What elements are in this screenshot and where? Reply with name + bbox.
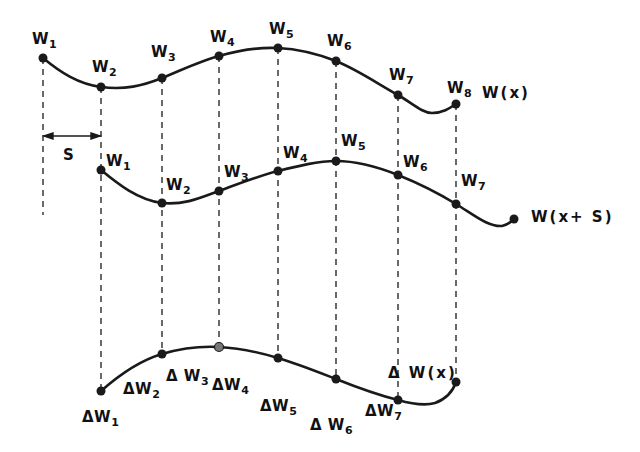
- point-dw-5: [332, 375, 341, 384]
- label-w-x-8: W8: [447, 79, 472, 100]
- label-w-x-3: W3: [151, 43, 176, 64]
- label-w-xs-1: W1: [106, 152, 131, 173]
- point-w-x-6: [332, 57, 341, 66]
- point-w-x-8: [452, 100, 461, 109]
- point-w-xs-7: [452, 200, 461, 209]
- point-w-x-7: [394, 91, 403, 100]
- label-w-xs-3: W3: [224, 163, 249, 184]
- point-dw-3: [215, 343, 224, 352]
- point-w-x-4: [215, 52, 224, 61]
- label-w-xs-4: W4: [283, 144, 308, 165]
- label-w-x-6: W6: [327, 32, 352, 53]
- label-dw-3: Δ W3: [166, 367, 209, 388]
- label-w-xs-2: W2: [166, 176, 191, 197]
- point-w-xs-6: [394, 171, 403, 180]
- diagram: W1 W2 W3 W4 W5 W6 W7 W8 W(x) S W1 W2 W3 …: [0, 0, 640, 452]
- label-w-x-7: W7: [389, 66, 414, 87]
- point-w-xs-1: [97, 166, 106, 175]
- point-w-xs-end: [510, 215, 519, 224]
- point-w-x-3: [158, 74, 167, 83]
- label-shift-s: S: [63, 146, 74, 164]
- dashed-guides: [43, 48, 456, 400]
- label-dw-4: ΔW4: [212, 376, 249, 397]
- point-dw-2: [158, 350, 167, 359]
- curve-w-x-plus-s: [101, 161, 514, 226]
- label-curve-w-x-plus-s: W(x+ S): [531, 208, 614, 226]
- label-dw-1: ΔW1: [82, 408, 119, 429]
- label-w-x-2: W2: [92, 58, 117, 79]
- point-w-x-2: [97, 83, 106, 92]
- label-dw-2: ΔW2: [123, 380, 160, 401]
- point-w-xs-4: [274, 167, 283, 176]
- point-dw-4: [274, 354, 283, 363]
- point-w-xs-2: [158, 199, 167, 208]
- label-dw-6: Δ W6: [310, 416, 353, 437]
- label-curve-delta-w-x: Δ W(x): [388, 364, 457, 382]
- point-w-xs-3: [215, 187, 224, 196]
- point-w-x-1: [39, 54, 48, 63]
- label-w-x-5: W5: [269, 20, 294, 41]
- point-w-x-5: [274, 44, 283, 53]
- label-curve-w-x: W(x): [482, 84, 530, 102]
- label-w-xs-5: W5: [341, 132, 366, 153]
- point-w-xs-5: [332, 157, 341, 166]
- label-dw-5: ΔW5: [260, 397, 297, 418]
- shift-arrow: [44, 133, 100, 139]
- label-w-x-1: W1: [32, 30, 57, 51]
- label-w-x-4: W4: [210, 28, 235, 49]
- label-dw-7: ΔW7: [365, 402, 402, 423]
- label-w-xs-6: W6: [403, 153, 428, 174]
- label-w-xs-7: W7: [461, 172, 486, 193]
- point-dw-1: [97, 387, 106, 396]
